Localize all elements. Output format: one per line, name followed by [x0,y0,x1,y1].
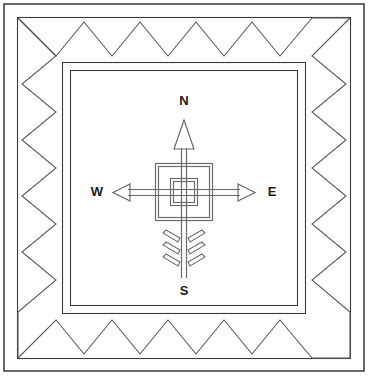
label-south: S [180,283,189,298]
feather-left-1 [163,230,180,242]
outer-frame-rect [4,4,364,371]
zigzag-bottom [18,320,350,358]
label-east: E [268,184,277,199]
feather-right-1 [188,230,205,242]
compass-diagram-page: N S E W [0,0,368,376]
zigzag-top [18,18,350,56]
zigzag-decorative-band [18,18,350,358]
nested-center-squares [156,164,213,221]
west-arrowhead [113,184,130,201]
feather-left-2 [163,242,180,254]
outer-center-square-outline [156,164,213,221]
outer-center-square-inline [159,167,210,218]
feather-right-2 [188,242,205,254]
east-arrowhead [238,184,255,201]
zigzag-right [312,18,350,358]
border-frames [4,4,364,371]
north-arrowhead [174,120,194,149]
fletching-group [163,230,205,266]
label-north: N [179,93,188,108]
feather-right-3 [188,254,205,266]
label-west: W [91,184,104,199]
feather-left-3 [163,254,180,266]
north-south-arrow [163,120,205,278]
compass-rose-svg: N S E W [0,0,368,376]
inner-center-square-inline [174,182,195,203]
zigzag-left [18,18,56,358]
inner-center-square-outline [171,179,198,206]
west-east-arrow [113,184,255,201]
zigzag-band-outer-rect [18,18,351,359]
